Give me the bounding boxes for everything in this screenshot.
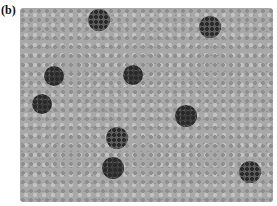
particle-cluster xyxy=(106,127,128,149)
particle-cluster xyxy=(123,65,143,85)
particle-cluster xyxy=(102,157,124,179)
panel-label: (b) xyxy=(1,3,16,18)
particle-cluster xyxy=(44,66,64,86)
particle-cluster xyxy=(199,16,221,38)
particle-cluster xyxy=(32,94,52,114)
particle-cluster xyxy=(239,161,261,183)
micrograph-image xyxy=(20,8,273,202)
particle-cluster xyxy=(88,9,110,31)
particle-cluster xyxy=(175,105,197,127)
